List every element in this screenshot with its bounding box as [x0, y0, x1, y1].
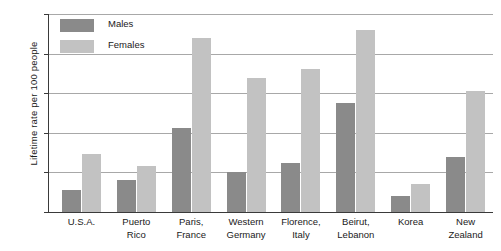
- gridline: [48, 14, 493, 15]
- gridline: [48, 93, 493, 94]
- gridline: [48, 172, 493, 173]
- bar-males: [227, 172, 246, 212]
- bar-females: [192, 38, 211, 212]
- bar-females: [137, 166, 156, 212]
- bar-chart-figure: Lifetime rate per 100 people 0510152025 …: [0, 0, 501, 251]
- x-tick-label: Paris, France: [164, 216, 219, 241]
- legend-label: Females: [108, 39, 144, 50]
- y-axis-title: Lifetime rate per 100 people: [28, 0, 39, 209]
- gridline: [48, 54, 493, 55]
- bar-males: [62, 190, 81, 212]
- x-tick-label: Puerto Rico: [109, 216, 164, 241]
- bar-females: [411, 184, 430, 212]
- x-tick-label: U.S.A.: [54, 216, 109, 229]
- bar-females: [247, 78, 266, 212]
- bar-females: [301, 69, 320, 212]
- gridline: [48, 133, 493, 134]
- bar-males: [281, 163, 300, 212]
- bar-males: [172, 128, 191, 212]
- bar-females: [466, 91, 485, 212]
- y-axis-line: [48, 14, 49, 212]
- bar-females: [356, 30, 375, 212]
- bar-males: [446, 157, 465, 212]
- x-axis-line: [48, 212, 493, 213]
- bar-males: [117, 180, 136, 212]
- legend-swatch-females: [60, 40, 94, 53]
- x-tick-label: New Zealand: [438, 216, 493, 241]
- bar-females: [82, 154, 101, 212]
- bar-males: [391, 196, 410, 212]
- bar-males: [336, 103, 355, 212]
- x-tick-label: Beirut, Lebanon: [328, 216, 383, 241]
- legend-label: Males: [108, 18, 133, 29]
- legend-swatch-males: [60, 19, 94, 32]
- x-tick-label: Western Germany: [219, 216, 274, 241]
- x-tick-label: Florence, Italy: [274, 216, 329, 241]
- x-tick-label: Korea: [383, 216, 438, 229]
